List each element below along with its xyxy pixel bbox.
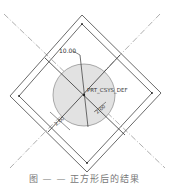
corner-point-right	[151, 92, 153, 94]
dimension-label: 10.00	[59, 47, 76, 54]
cad-sketch-canvas: 10.00 PRT_CSYS_DEF 2.00 2.00	[0, 0, 169, 186]
corner-point-bottom	[86, 162, 88, 164]
center-point	[83, 94, 85, 96]
csys-label: PRT_CSYS_DEF	[87, 87, 128, 94]
figure-caption: 图 — — 正方形后的结果	[0, 172, 169, 185]
corner-point-top	[81, 23, 83, 25]
corner-point-left	[18, 95, 20, 97]
